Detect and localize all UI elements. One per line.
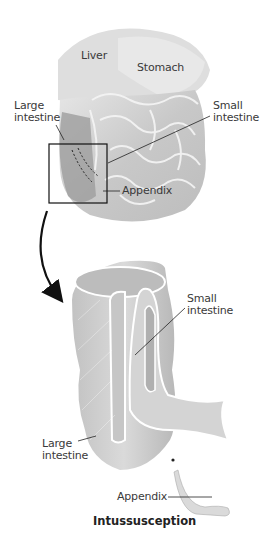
curved-arrow <box>41 211 58 296</box>
label-liver: Liver <box>81 50 107 62</box>
label-appendix-detail: Appendix <box>117 491 167 503</box>
label-large-intestine-top-2: intestine <box>14 112 60 124</box>
label-large-intestine-detail-2: intestine <box>42 450 88 462</box>
label-appendix-top: Appendix <box>122 185 172 197</box>
illustration <box>0 0 269 540</box>
label-small-intestine-detail-2: intestine <box>187 305 233 317</box>
figure-caption: Intussusception <box>93 514 196 528</box>
label-small-intestine-top-2: intestine <box>213 112 259 124</box>
label-stomach: Stomach <box>137 62 184 74</box>
